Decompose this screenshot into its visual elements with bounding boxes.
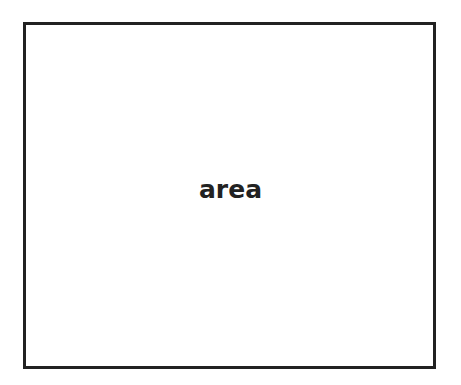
- area-label: area: [0, 175, 461, 204]
